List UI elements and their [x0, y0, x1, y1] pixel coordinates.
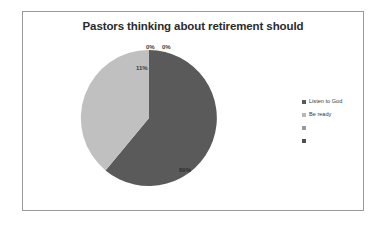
chart-legend: Listen to God Be ready [302, 96, 364, 148]
pie-data-label-listen-to-god: 89% [179, 167, 191, 173]
pie-data-label-be-ready: 11% [136, 65, 148, 71]
legend-swatch-icon [302, 100, 306, 104]
legend-entry-be-ready[interactable]: Be ready [302, 109, 364, 122]
legend-swatch-icon [302, 113, 306, 117]
legend-entry-listen-to-god[interactable]: Listen to God [302, 96, 364, 109]
legend-swatch-icon [302, 139, 306, 143]
pie-chart-plot-area: 0% 0% 11% 89% Listen to God Be ready [23, 12, 363, 210]
legend-swatch-icon [302, 126, 306, 130]
chart-frame: Pastors thinking about retirement should… [22, 11, 364, 211]
legend-label-listen-to-god: Listen to God [309, 99, 342, 105]
pie-data-label-zero-b: 0% [162, 44, 171, 50]
pie-data-label-zero-a: 0% [146, 44, 155, 50]
legend-entry-fourth[interactable] [302, 135, 364, 148]
legend-entry-third[interactable] [302, 122, 364, 135]
pie-graphic [74, 43, 224, 193]
legend-label-be-ready: Be ready [309, 112, 331, 118]
